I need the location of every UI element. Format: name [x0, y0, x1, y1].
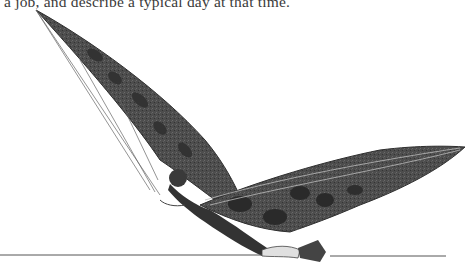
right-wing [200, 146, 465, 232]
left-wing [36, 10, 238, 200]
glider-illustration [0, 0, 465, 264]
